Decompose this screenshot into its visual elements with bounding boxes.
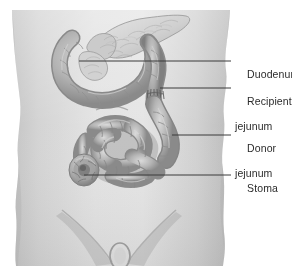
label-stoma-line1: Stoma <box>247 182 278 194</box>
stoma <box>69 154 99 186</box>
label-stoma: Stoma <box>235 169 278 207</box>
medical-illustration-figure: Duodenum Recipient jejunum Donor jejunum… <box>0 0 292 273</box>
label-recipient-jejunum-line1: Recipient <box>247 95 292 107</box>
label-duodenum-line1: Duodenum <box>247 68 292 80</box>
label-donor-jejunum-line1: Donor <box>247 142 276 154</box>
